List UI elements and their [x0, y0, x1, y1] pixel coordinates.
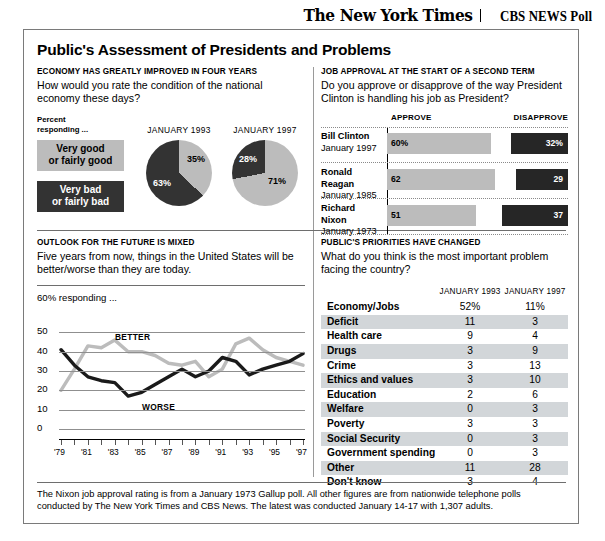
economy-question: How would you rate the condition of the … — [37, 79, 295, 104]
approval-nixon-date: January 1973 — [321, 226, 383, 237]
page-title: Public's Assessment of Presidents and Pr… — [37, 41, 391, 59]
x-axis-tick-label: '79 — [54, 447, 65, 457]
x-axis-tick — [142, 440, 143, 445]
x-axis-tick — [195, 440, 196, 445]
x-axis-tick-label: '83 — [108, 447, 119, 457]
approval-kicker: JOB APPROVAL AT THE START OF A SECOND TE… — [321, 67, 568, 76]
outlook-panel: OUTLOOK FOR THE FUTURE IS MIXED Five yea… — [37, 238, 307, 457]
priority-label: Drugs — [327, 345, 356, 356]
x-axis-tick-label: '81 — [81, 447, 92, 457]
chart-gridline — [59, 390, 305, 391]
x-axis-tick — [249, 440, 250, 445]
economy-kicker: ECONOMY HAS GREATLY IMPROVED IN FOUR YEA… — [37, 67, 307, 76]
priority-value-1993: 3 — [439, 418, 501, 429]
table-row: Government spending03 — [321, 446, 568, 461]
column-divider — [313, 67, 314, 477]
poll-infographic: The New York TimesCBS NEWS Poll Public's… — [0, 0, 605, 541]
approval-reagan-approve-value: 62 — [391, 174, 401, 184]
priority-value-1993: 0 — [439, 403, 501, 414]
approval-table: Bill Clinton January 1997 60% 32% — [321, 127, 568, 235]
approval-row-nixon: Richard Nixon January 1973 51 37 — [321, 199, 568, 235]
approval-reagan-name: Ronald Reagan — [321, 167, 383, 190]
outlook-line-chart: BETTER WORSE 01020304050'79'81'83'85'87'… — [37, 305, 305, 457]
approval-column-headers: APPROVE DISAPPROVE — [321, 113, 568, 125]
approval-row-nixon-labels: Richard Nixon January 1973 — [321, 203, 383, 237]
priority-value-1993: 3 — [439, 345, 501, 356]
table-row: Drugs39 — [321, 344, 568, 359]
x-axis-tick — [101, 440, 102, 445]
approval-clinton-bars: 60% 32% — [387, 133, 568, 154]
table-row: Welfare03 — [321, 402, 568, 417]
y-axis-tick-label: 30 — [37, 364, 48, 375]
priority-value-1997: 13 — [504, 360, 566, 371]
approval-clinton-disapprove-bar: 32% — [511, 133, 568, 154]
legend-good-line1: Very good — [37, 143, 124, 155]
x-axis-tick-label: '93 — [242, 447, 253, 457]
table-row: Deficit113 — [321, 315, 568, 330]
approval-clinton-approve-bar: 60% — [387, 133, 491, 154]
priority-value-1993: 11 — [439, 462, 501, 473]
line-series-better — [61, 338, 303, 390]
priority-value-1997: 28 — [504, 462, 566, 473]
x-axis-tick-label: '91 — [215, 447, 226, 457]
x-axis-tick — [290, 440, 291, 445]
infographic-frame: Public's Assessment of Presidents and Pr… — [23, 29, 579, 524]
chart-gridline — [59, 410, 305, 411]
table-row: Crime313 — [321, 359, 568, 374]
x-axis-tick — [236, 440, 237, 445]
x-axis-tick-label: '95 — [269, 447, 280, 457]
chart-gridline — [59, 352, 305, 353]
approval-reagan-disapprove-value: 29 — [553, 174, 563, 184]
approval-rule-3 — [321, 234, 568, 235]
x-axis-tick — [61, 440, 62, 445]
priority-value-1997: 10 — [504, 374, 566, 385]
x-axis-tick — [303, 440, 304, 445]
x-axis-tick — [88, 440, 89, 445]
legend-good-line2: or fairly good — [37, 155, 124, 167]
pie-1993-graphic: 35% 63% — [146, 140, 212, 206]
priority-value-1997: 3 — [504, 447, 566, 458]
pie-chart-1997: JANUARY 1997 71% 28% — [227, 125, 303, 206]
priority-value-1997: 3 — [504, 433, 566, 444]
priorities-col-1993: JANUARY 1993 — [439, 287, 501, 296]
masthead-divider — [480, 9, 481, 22]
priority-label: Health care — [327, 330, 382, 341]
x-axis-tick — [128, 440, 129, 445]
approval-clinton-disapprove-value: 32% — [546, 138, 563, 148]
priority-value-1993: 3 — [439, 374, 501, 385]
priorities-table: Economy/Jobs52%11%Deficit113Health care9… — [321, 300, 568, 490]
priority-value-1993: 52% — [439, 301, 501, 312]
table-row: Health care94 — [321, 329, 568, 344]
priority-value-1993: 0 — [439, 447, 501, 458]
approval-reagan-approve-bar: 62 — [387, 169, 495, 190]
legend-swatch-bad: Very bad or fairly bad — [37, 181, 124, 212]
x-axis-tick — [222, 440, 223, 445]
priorities-column-headers: JANUARY 1993 JANUARY 1997 — [321, 287, 568, 299]
approval-nixon-name: Richard Nixon — [321, 203, 383, 226]
x-axis-tick — [155, 440, 156, 445]
x-axis-tick — [169, 440, 170, 445]
y-axis-tick-label: 50 — [37, 325, 48, 336]
priority-value-1993: 0 — [439, 433, 501, 444]
priority-value-1997: 6 — [504, 389, 566, 400]
pie-1997-good-label: 71% — [268, 176, 286, 186]
priority-label: Poverty — [327, 418, 364, 429]
approve-column-header: APPROVE — [391, 113, 432, 122]
priority-value-1997: 3 — [504, 418, 566, 429]
approval-nixon-bars: 51 37 — [387, 205, 568, 226]
priority-value-1993: 11 — [439, 316, 501, 327]
approval-clinton-date: January 1997 — [321, 143, 383, 154]
approval-nixon-disapprove-value: 37 — [553, 210, 563, 220]
table-row: Ethics and values310 — [321, 373, 568, 388]
priority-label: Education — [327, 389, 376, 400]
approval-row-reagan: Ronald Reagan January 1985 62 29 — [321, 163, 568, 199]
x-axis-tick-label: '89 — [188, 447, 199, 457]
priority-value-1993: 2 — [439, 389, 501, 400]
pie-1993-good-label: 35% — [187, 154, 205, 164]
outlook-kicker: OUTLOOK FOR THE FUTURE IS MIXED — [37, 238, 307, 247]
chart-gridline — [59, 332, 305, 333]
legend-heading-line1: Percent — [37, 115, 307, 124]
priorities-kicker: PUBLIC'S PRIORITIES HAVE CHANGED — [321, 238, 568, 247]
pie-chart-1993: JANUARY 1993 35% 63% — [141, 125, 217, 206]
outlook-question: Five years from now, things in the Unite… — [37, 250, 299, 275]
